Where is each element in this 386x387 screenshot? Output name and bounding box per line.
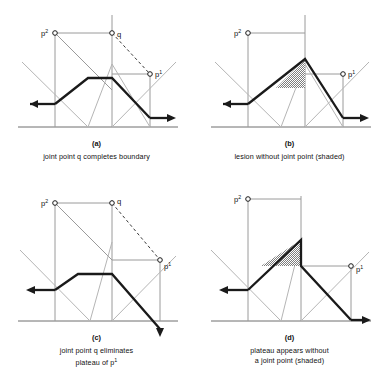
dashed-line-q-to-p1 xyxy=(112,203,160,260)
right-arrowhead-icon xyxy=(362,316,371,324)
medium-diagonal-right-helper xyxy=(305,64,343,127)
panel-c: p2 q p1 (c) joint point q eliminates pla… xyxy=(0,194,193,387)
label-q: q xyxy=(117,197,121,206)
label-p1: p1 xyxy=(356,264,363,274)
panel-d: p2 p1 (d) plateau appears without a join… xyxy=(193,194,386,387)
medium-diagonal-p2-descend xyxy=(55,203,112,260)
panel-b: p2 p1 (b) lesion without joint point (sh… xyxy=(193,0,386,193)
shaded-plateau-region xyxy=(261,240,301,266)
panel-caption-c-line2-sup: 1 xyxy=(114,357,117,363)
marker-q xyxy=(110,31,115,36)
panel-a-diagram: p2 q p1 xyxy=(0,0,193,140)
panel-caption-c: joint point q eliminates plateau of p1 xyxy=(0,346,193,368)
marker-p2 xyxy=(246,197,251,202)
marker-p1 xyxy=(341,72,346,77)
label-p2: p2 xyxy=(41,28,48,38)
panel-caption-d: plateau appears without a joint point (s… xyxy=(193,346,386,365)
panel-letter-c: (c) xyxy=(0,333,193,342)
panel-caption-c-line2-text: plateau of p xyxy=(76,358,115,367)
panel-caption-d-line1: plateau appears without xyxy=(193,346,386,356)
left-arrowhead-icon xyxy=(223,100,231,108)
left-arrowhead-icon xyxy=(219,286,228,294)
panel-a: p2 q p1 (a) joint point q completes boun… xyxy=(0,0,193,193)
label-p2: p2 xyxy=(234,28,241,38)
label-p2: p2 xyxy=(234,194,241,204)
marker-p2 xyxy=(53,31,58,36)
right-arrowhead-icon xyxy=(360,114,369,122)
panel-c-diagram: p2 q p1 xyxy=(0,194,193,339)
panel-caption-a: joint point q completes boundary xyxy=(0,152,193,162)
marker-p1 xyxy=(148,72,153,77)
panel-d-diagram: p2 p1 xyxy=(193,194,386,339)
panel-b-diagram: p2 p1 xyxy=(193,0,386,140)
marker-q xyxy=(110,201,115,206)
label-p2: p2 xyxy=(41,198,48,208)
medium-diagonal-left-helper xyxy=(90,242,112,321)
marker-p2 xyxy=(246,31,251,36)
panel-caption-d-line2: a joint point (shaded) xyxy=(193,356,386,366)
marker-p1 xyxy=(349,264,354,269)
label-q: q xyxy=(117,30,121,39)
panel-caption-c-line2: plateau of p1 xyxy=(0,356,193,368)
panel-letter-d: (d) xyxy=(193,333,386,342)
panel-letter-a: (a) xyxy=(0,139,193,148)
panel-caption-b: lesion without joint point (shaded) xyxy=(193,152,386,162)
dashed-line-q-to-p1 xyxy=(112,33,150,74)
panel-letter-b: (b) xyxy=(193,139,386,148)
left-arrowhead-icon xyxy=(26,286,35,294)
left-arrowhead-icon xyxy=(30,100,38,108)
medium-diagonal-left-helper xyxy=(88,64,112,127)
marker-p2 xyxy=(53,201,58,206)
light-diagonal-up-right xyxy=(301,252,369,321)
panel-caption-c-line1: joint point q eliminates xyxy=(0,346,193,356)
label-p1: p1 xyxy=(164,261,171,271)
right-arrowhead-icon xyxy=(167,114,176,122)
medium-diagonal-right-helper xyxy=(112,64,150,127)
marker-p1 xyxy=(158,258,163,263)
figure-container: p2 q p1 (a) joint point q completes boun… xyxy=(0,0,386,387)
boundary-profile xyxy=(55,78,150,118)
